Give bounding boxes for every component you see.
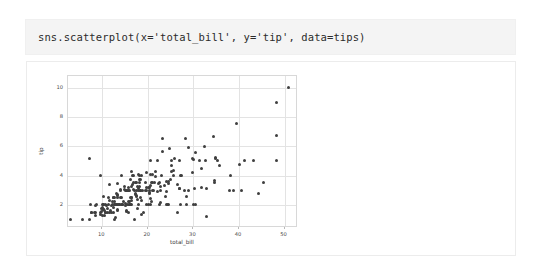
scatter-point (193, 187, 196, 190)
scatter-point (194, 151, 197, 154)
scatter-point (135, 189, 138, 192)
scatter-point (287, 86, 290, 89)
scatter-point (198, 159, 201, 162)
y-axis-ticks: 246810 (49, 75, 63, 227)
scatter-point (133, 218, 136, 221)
scatter-point (185, 203, 188, 206)
scatter-point (140, 213, 143, 216)
x-tick-label: 40 (235, 231, 242, 237)
x-tick-label: 30 (189, 231, 196, 237)
scatter-point (126, 203, 129, 206)
scatter-point (154, 170, 157, 173)
scatter-point (200, 186, 203, 189)
scatter-point (130, 199, 133, 202)
scatter-point (204, 159, 207, 162)
scatter-point (156, 159, 159, 162)
scatter-point (161, 150, 164, 153)
scatter-point (116, 196, 119, 199)
scatter-point (257, 192, 260, 195)
scatter-point (205, 187, 208, 190)
scatter-point (89, 203, 92, 206)
scatter-point (119, 189, 122, 192)
scatter-point (214, 157, 217, 160)
x-tick-label: 20 (143, 231, 150, 237)
scatter-point (163, 184, 166, 187)
scatter-point (203, 145, 206, 148)
scatter-point (153, 181, 156, 184)
scatter-point (116, 209, 119, 212)
scatter-point (140, 174, 143, 177)
scatter-point (170, 164, 173, 167)
plot-axes-area (67, 75, 297, 227)
scatter-point (112, 206, 115, 209)
x-tick-mark (238, 227, 239, 229)
scatter-point (228, 189, 231, 192)
scatter-point (168, 147, 171, 150)
y-tick-label: 8 (60, 113, 63, 119)
scatter-point (159, 189, 162, 192)
scatter-point (212, 135, 215, 138)
scatter-point (178, 159, 181, 162)
scatter-point (160, 174, 163, 177)
scatter-point (88, 218, 91, 221)
scatter-point (159, 185, 162, 188)
scatter-point (238, 163, 241, 166)
scatter-point (94, 214, 97, 217)
scatter-point (156, 190, 159, 193)
code-input-cell[interactable]: sns.scatterplot(x='total_bill', y='tip',… (25, 19, 516, 55)
y-tick-label: 10 (56, 84, 63, 90)
scatter-point (262, 181, 265, 184)
y-tick-label: 6 (60, 142, 63, 148)
scatter-point (126, 189, 129, 192)
scatter-point (144, 181, 147, 184)
scatter-point (161, 137, 164, 140)
scatter-point (141, 189, 144, 192)
scatter-point (167, 182, 170, 185)
scatter-point (205, 215, 208, 218)
gridline-vertical (239, 76, 240, 226)
scatter-point (149, 173, 152, 176)
scatter-point (216, 159, 219, 162)
scatter-point (165, 203, 168, 206)
scatter-point (179, 203, 182, 206)
scatter-point (173, 157, 176, 160)
scatter-point (116, 182, 119, 185)
scatter-point (200, 167, 203, 170)
scatter-point (120, 174, 123, 177)
scatter-point (165, 190, 168, 193)
scatter-point (164, 195, 167, 198)
scatter-point (136, 207, 139, 210)
scatter-point (131, 174, 134, 177)
scatter-point (185, 195, 188, 198)
scatter-point (232, 189, 235, 192)
code-text: sns.scatterplot(x='total_bill', y='tip',… (38, 31, 366, 44)
scatter-point (140, 199, 143, 202)
scatter-point (218, 164, 221, 167)
scatter-point (235, 122, 238, 125)
scatter-point (127, 211, 130, 214)
cell-output-area: 246810 1020304050 total_bill tip (26, 61, 516, 256)
scatter-point (88, 157, 91, 160)
scatter-point (99, 174, 102, 177)
scatter-point (169, 178, 172, 181)
scatter-point (151, 189, 154, 192)
scatter-point (275, 134, 278, 137)
scatter-point (94, 204, 97, 207)
scatter-point (243, 159, 246, 162)
scatter-point (90, 211, 93, 214)
scatter-point (240, 189, 243, 192)
scatter-point (149, 159, 152, 162)
scatter-point (138, 185, 141, 188)
scatter-point (149, 203, 152, 206)
scatter-point (108, 211, 111, 214)
x-tick-mark (147, 227, 148, 229)
y-tick-label: 2 (60, 201, 63, 207)
scatter-point (100, 207, 103, 210)
scatter-point (130, 170, 133, 173)
scatter-point (138, 181, 141, 184)
scatter-point (113, 218, 116, 221)
scatter-point (93, 211, 96, 214)
x-axis-label: total_bill (67, 239, 297, 245)
scatter-point (172, 174, 175, 177)
scatter-point (252, 159, 255, 162)
